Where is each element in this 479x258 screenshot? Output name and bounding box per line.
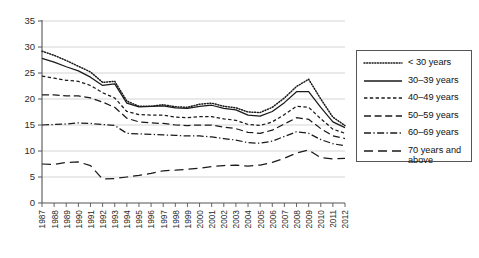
legend-swatch-60-69-icon <box>363 127 403 139</box>
legend-swatch-50-59-icon <box>363 110 403 122</box>
legend-item: < 30 years <box>363 57 466 70</box>
y-axis-tick-label: 0 <box>30 197 35 208</box>
legend-label: 50–59 years <box>408 110 459 121</box>
plot-area: 0510152025303519871988198919901991199219… <box>0 0 352 258</box>
x-axis-tick-label: 2012 <box>340 210 350 229</box>
x-axis-tick-label: 2010 <box>316 210 326 229</box>
y-axis-tick-label: 35 <box>24 15 35 26</box>
x-axis-tick-label: 2011 <box>328 210 338 228</box>
legend-swatch-under-30-icon <box>363 57 403 69</box>
legend-label: < 30 years <box>408 57 451 68</box>
series-line <box>42 150 345 179</box>
legend-label: 40–49 years <box>408 92 459 103</box>
legend-item: 30–39 years <box>363 75 466 88</box>
x-axis-tick-label: 1993 <box>110 210 120 229</box>
chart-legend: < 30 years 30–39 years 40–49 years 50–59… <box>356 50 472 162</box>
x-axis-tick-label: 1987 <box>37 210 47 229</box>
y-axis-tick-label: 20 <box>24 93 35 104</box>
y-axis-tick-label: 30 <box>24 41 35 52</box>
x-axis-tick-label: 2007 <box>280 210 290 229</box>
line-chart: 0510152025303519871988198919901991199219… <box>0 0 352 258</box>
x-axis-tick-label: 2001 <box>207 210 217 229</box>
x-axis-tick-label: 1994 <box>122 210 132 229</box>
chart-root: 0510152025303519871988198919901991199219… <box>0 0 479 258</box>
x-axis-tick-label: 1995 <box>134 210 144 229</box>
x-axis-tick-label: 2006 <box>268 210 278 229</box>
legend-swatch-70-plus-icon <box>363 145 403 157</box>
x-axis-tick-label: 1990 <box>74 210 84 229</box>
y-axis-tick-label: 15 <box>24 119 35 130</box>
legend-label: 60–69 years <box>408 127 459 138</box>
legend-swatch-30-39-icon <box>363 75 403 87</box>
x-axis-tick-label: 1999 <box>183 210 193 229</box>
y-axis-tick-label: 25 <box>24 67 35 78</box>
x-axis-tick-label: 1996 <box>146 210 156 229</box>
x-axis-tick-label: 2009 <box>304 210 314 229</box>
legend-item: 60–69 years <box>363 127 466 140</box>
series-line <box>42 51 345 125</box>
x-axis-tick-label: 2003 <box>231 210 241 229</box>
legend-label: 30–39 years <box>408 75 459 86</box>
legend-swatch-40-49-icon <box>363 92 403 104</box>
y-axis-tick-label: 5 <box>30 171 35 182</box>
x-axis-tick-label: 1988 <box>50 210 60 229</box>
series-line <box>42 58 345 127</box>
x-axis-tick-label: 2008 <box>292 210 302 229</box>
x-axis-tick-label: 1992 <box>98 210 108 229</box>
y-axis-tick-label: 10 <box>24 145 35 156</box>
legend-item: 70 years and above <box>363 145 466 158</box>
x-axis-tick-label: 2004 <box>243 210 253 229</box>
x-axis-tick-label: 2005 <box>256 210 266 229</box>
series-line <box>42 123 345 146</box>
x-axis-tick-label: 1998 <box>171 210 181 229</box>
x-axis-tick-label: 2002 <box>219 210 229 229</box>
x-axis-tick-label: 1989 <box>62 210 72 229</box>
x-axis-tick-label: 2000 <box>195 210 205 229</box>
x-axis-tick-label: 1991 <box>86 210 96 229</box>
legend-item: 40–49 years <box>363 92 466 105</box>
legend-label: 70 years and above <box>408 145 461 166</box>
x-axis-tick-label: 1997 <box>159 210 169 229</box>
legend-item: 50–59 years <box>363 110 466 123</box>
